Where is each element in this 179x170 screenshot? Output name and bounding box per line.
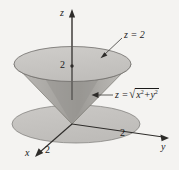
radicand-y-exponent: 2 <box>155 89 158 95</box>
cone-equation-lhs: z = <box>115 89 128 100</box>
sqrt-group: √x2+y2 <box>128 88 159 100</box>
z-tick-label: 2 <box>60 60 65 70</box>
sqrt-symbol: √ <box>129 88 135 101</box>
z-axis-label: z <box>60 8 64 18</box>
z-axis-arrowhead <box>69 9 75 18</box>
x-tick-label: 2 <box>45 145 50 155</box>
cone-figure: z 2 y 2 x 2 z = 2 z =√x2+y2 <box>0 0 179 170</box>
x-axis-label: x <box>25 148 29 158</box>
cone-figure-svg <box>0 0 179 170</box>
y-axis-label: y <box>161 142 165 152</box>
y-tick-label: 2 <box>120 128 125 138</box>
cone-equation-label: z =√x2+y2 <box>115 88 159 100</box>
radicand: x2+y2 <box>135 88 159 100</box>
plane-equation-label: z = 2 <box>124 30 145 40</box>
z-tick-marker <box>70 64 73 67</box>
